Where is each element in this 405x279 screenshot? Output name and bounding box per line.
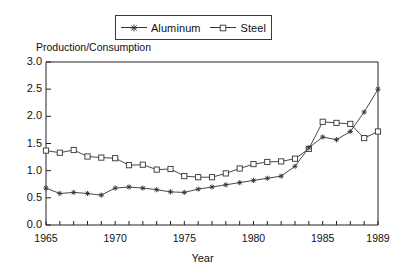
chart-figure: Aluminum Steel Production/Consumption 0.… <box>0 0 405 279</box>
y-tick-label: 3.0 <box>8 55 42 67</box>
x-tick-label: 1989 <box>366 232 389 244</box>
x-tick-label: 1975 <box>173 232 196 244</box>
y-tick-label: 0.0 <box>8 218 42 230</box>
plot-area <box>0 0 405 279</box>
x-tick-label: 1980 <box>242 232 265 244</box>
x-tick-label: 1965 <box>34 232 57 244</box>
y-tick-label: 2.0 <box>8 109 42 121</box>
y-tick-label: 1.0 <box>8 164 42 176</box>
y-tick-label: 0.5 <box>8 191 42 203</box>
y-tick-label: 2.5 <box>8 82 42 94</box>
y-tick-label: 1.5 <box>8 137 42 149</box>
x-axis-title: Year <box>0 252 405 264</box>
x-tick-label: 1970 <box>103 232 126 244</box>
x-tick-label: 1985 <box>311 232 334 244</box>
